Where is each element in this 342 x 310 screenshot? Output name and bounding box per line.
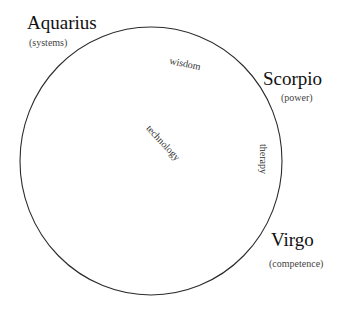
sign-quality-virgo: (competence) xyxy=(269,258,323,270)
sign-aquarius: Aquarius (systems) xyxy=(27,12,97,49)
sign-quality-aquarius: (systems) xyxy=(29,37,67,49)
inner-label-wisdom: wisdom xyxy=(168,55,201,72)
sign-name-virgo: Virgo xyxy=(271,229,314,250)
astrology-circle-diagram: Aquarius (systems) Scorpio (power) Virgo… xyxy=(0,0,342,310)
sign-name-aquarius: Aquarius xyxy=(27,12,97,33)
inner-label-therapy: therapy xyxy=(258,144,269,174)
inner-label-technology: technology xyxy=(144,123,182,163)
sign-quality-scorpio: (power) xyxy=(281,92,313,104)
sign-virgo: Virgo (competence) xyxy=(269,229,323,270)
sign-name-scorpio: Scorpio xyxy=(263,68,322,89)
main-circle xyxy=(20,27,282,295)
sign-scorpio: Scorpio (power) xyxy=(263,68,322,104)
